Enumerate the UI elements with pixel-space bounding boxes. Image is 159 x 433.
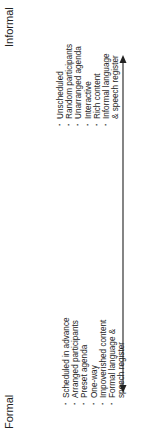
diagram-canvas: Formal Informal Scheduled in advance Arr…: [0, 0, 159, 433]
list-item: One-way: [90, 317, 99, 405]
list-item: Preset agenda: [80, 317, 89, 405]
informal-characteristics-list: Unscheduled Random participants Unarrang…: [56, 44, 120, 126]
list-item-continuation: speech register: [117, 317, 126, 405]
list-item: Informal language: [102, 44, 111, 126]
list-item: Scheduled in advance: [62, 317, 71, 405]
list-item: Rich content: [93, 44, 102, 126]
informal-label: Informal: [3, 7, 15, 47]
list-item: Unscheduled: [56, 44, 65, 126]
list-item: Impoverished content: [99, 317, 108, 405]
list-item-continuation: & speech register: [111, 44, 120, 126]
list-item: Unarranged agenda: [74, 44, 83, 126]
list-item: Interactive: [84, 44, 93, 126]
list-item: Formal language &: [108, 317, 117, 405]
list-item: Random participants: [65, 44, 74, 126]
formal-characteristics-list: Scheduled in advance Arranged participan…: [62, 317, 126, 405]
list-item: Arranged participants: [71, 317, 80, 405]
formal-label: Formal: [3, 395, 15, 429]
